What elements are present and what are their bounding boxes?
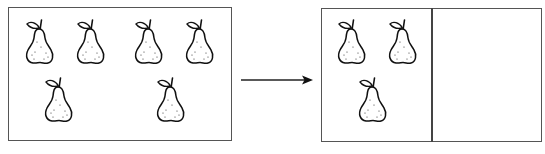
- target-section-2-empty: [433, 10, 539, 140]
- pear-icon: [73, 17, 107, 67]
- pear-icon: [153, 75, 187, 125]
- pear-icon: [355, 75, 389, 125]
- pear-icon: [22, 17, 56, 67]
- pear-icon: [385, 17, 419, 67]
- pear-icon: [182, 17, 216, 67]
- pear-icon: [334, 17, 368, 67]
- pear-icon: [131, 17, 165, 67]
- pear-icon: [41, 75, 75, 125]
- arrow-right-icon: [238, 72, 316, 88]
